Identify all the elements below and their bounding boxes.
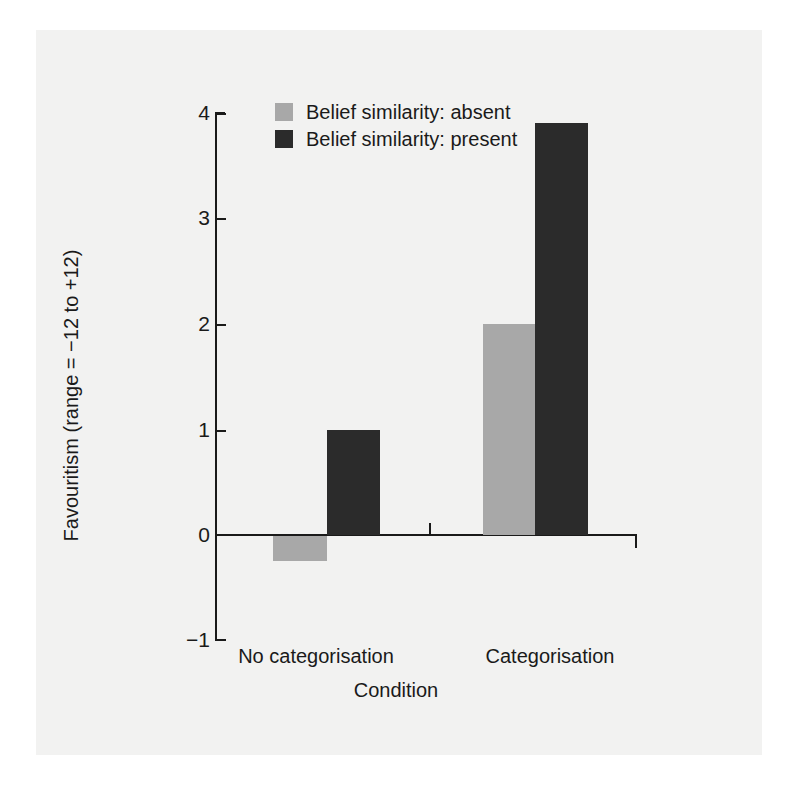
y-tick-row-2: 2 — [0, 324, 210, 326]
bar-no-categorisation-absent — [273, 536, 327, 561]
x-axis-category-label-no-categorisation: No categorisation — [206, 645, 426, 668]
legend-item-present: Belief similarity: present — [275, 125, 517, 152]
x-axis-title: Condition — [316, 679, 476, 702]
y-axis-bottom-cap — [215, 639, 226, 641]
chart-legend: Belief similarity: absent Belief similar… — [275, 98, 517, 152]
bar-no-categorisation-present — [327, 430, 380, 535]
y-tick-label-3: 3 — [170, 207, 210, 228]
y-tick-label-2: 2 — [170, 313, 210, 334]
y-axis-title: Favouritism (range = −12 to +12) — [60, 216, 83, 576]
y-tick-row-neg1: −1 — [0, 640, 210, 642]
y-tick-mark-1 — [217, 430, 226, 432]
x-axis-category-label-categorisation: Categorisation — [450, 645, 650, 668]
y-axis-line — [215, 113, 217, 641]
bar-categorisation-present — [535, 123, 588, 535]
y-tick-mark-2 — [217, 324, 226, 326]
y-tick-label-4: 4 — [170, 102, 210, 123]
y-tick-label-neg1: −1 — [170, 629, 210, 650]
legend-swatch-absent — [275, 103, 293, 121]
legend-swatch-present — [275, 130, 293, 148]
legend-label-present: Belief similarity: present — [306, 129, 517, 149]
y-tick-row-3: 3 — [0, 218, 210, 220]
y-tick-mark-3 — [217, 218, 226, 220]
y-tick-mark-4 — [217, 113, 226, 115]
y-tick-label-1: 1 — [170, 419, 210, 440]
x-axis-group-separator-tick — [429, 523, 431, 535]
y-tick-row-1: 1 — [0, 430, 210, 432]
legend-item-absent: Belief similarity: absent — [275, 98, 517, 125]
y-tick-label-0: 0 — [170, 524, 210, 545]
legend-label-absent: Belief similarity: absent — [306, 102, 511, 122]
bar-chart: Belief similarity: absent Belief similar… — [0, 0, 793, 790]
y-tick-row-0: 0 — [0, 535, 210, 537]
bar-categorisation-absent — [483, 324, 535, 535]
y-tick-row-4: 4 — [0, 113, 210, 115]
x-axis-right-end-tick — [635, 536, 637, 548]
